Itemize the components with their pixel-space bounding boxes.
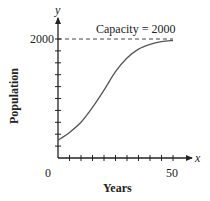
x-axis-letter: x (194, 151, 201, 165)
x-tick-label-50: 50 (166, 166, 178, 180)
y-axis-letter: y (54, 3, 61, 17)
y-tick-label-2000: 2000 (30, 32, 54, 46)
x-axis-title: Years (103, 181, 132, 195)
logistic-growth-chart: y x 2000 0 50 Capacity = 2000 Years Popu… (0, 0, 210, 201)
capacity-annotation: Capacity = 2000 (96, 22, 175, 36)
y-axis-title: Population (7, 68, 21, 124)
population-curve (58, 40, 173, 140)
x-tick-label-0: 0 (45, 166, 51, 180)
